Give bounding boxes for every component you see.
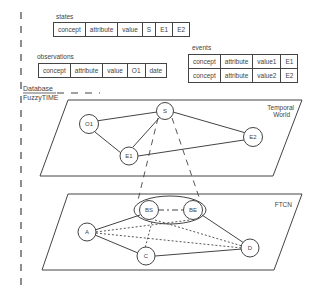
diagram-canvas: S O1 E1 E2 Temporal World BS BE A C [0,0,318,293]
node-e1: E1 [120,147,138,165]
svg-text:E1: E1 [125,153,133,159]
svg-text:O1: O1 [85,121,94,127]
node-e2: E2 [244,128,263,147]
edge-s-e2 [173,112,246,133]
svg-text:E2: E2 [249,134,257,140]
node-c: C [137,247,155,265]
events-cell: E1 [281,55,298,69]
observations-record: concept attribute value O1 date [38,63,167,78]
node-bs: BS [140,201,159,220]
observations-cell: value [103,64,128,78]
edge-a-d-dotted [96,233,242,248]
edge-e1-e2 [138,140,244,156]
edge-bs-c-dotted [145,222,152,248]
states-cell: attribute [85,23,118,37]
edge-o1-e1 [95,132,121,153]
states-cell: E2 [173,23,190,37]
node-o1: O1 [80,115,99,134]
events-cell: value1 [253,55,281,69]
events-cell: concept [189,69,221,83]
events-cell: E2 [281,69,298,83]
node-d: D [241,239,259,257]
states-cell: value [118,23,143,37]
edge-be-d [202,215,244,243]
events-title: events [192,44,211,51]
svg-text:C: C [144,253,149,259]
svg-text:BS: BS [145,207,153,213]
edge-e1-s [133,117,160,147]
observations-cell: O1 [127,64,145,78]
edge-c-d [155,249,242,256]
node-a: A [78,223,96,241]
events-row: concept attribute value2 E2 [189,69,298,83]
states-cell: E1 [156,23,173,37]
events-cell: attribute [220,69,253,83]
events-record: concept attribute value1 E1 concept attr… [188,54,298,83]
svg-text:S: S [163,108,167,114]
node-be: BE [184,201,203,220]
projection-line-right [172,118,200,200]
edge-o1-s [96,112,157,121]
edge-a-bs [95,215,140,230]
states-record: concept attribute value S E1 E2 [53,22,190,37]
events-cell: value2 [253,69,281,83]
ftcn-label: FTCN [275,201,293,208]
observations-cell: date [145,64,167,78]
observations-title: observations [37,53,74,60]
temporal-label-2: World [273,111,290,118]
observations-cell: attribute [70,64,103,78]
states-cell: S [142,23,155,37]
svg-text:D: D [248,245,253,251]
events-cell: attribute [220,55,253,69]
events-row: concept attribute value1 E1 [189,55,298,69]
states-title: states [56,13,73,20]
database-label: Database [23,85,53,92]
svg-text:BE: BE [189,207,197,213]
states-cell: concept [54,23,86,37]
fuzzytime-label: FuzzyTIME [23,94,58,101]
observations-cell: concept [39,64,71,78]
node-s: S [157,103,174,120]
events-cell: concept [189,55,221,69]
svg-text:A: A [85,229,89,235]
edge-a-c [95,235,138,253]
